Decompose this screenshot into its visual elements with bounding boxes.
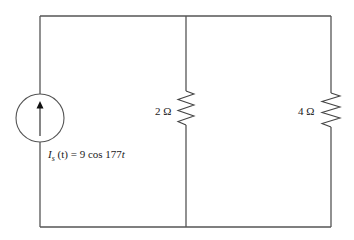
resistor-2ohm-label: 2 Ω	[155, 106, 171, 117]
current-source-icon	[16, 94, 64, 142]
resistor-2ohm-icon	[178, 91, 194, 125]
resistor-4ohm-label: 4 Ω	[298, 106, 314, 117]
source-label-variable: t	[122, 148, 125, 160]
source-label-subscript: s	[52, 154, 55, 163]
resistor-4ohm-icon	[322, 93, 340, 127]
circuit-diagram	[0, 0, 354, 240]
source-label-expression: (t) = 9 cos 177	[55, 148, 122, 160]
source-label: Is (t) = 9 cos 177t	[48, 149, 125, 160]
